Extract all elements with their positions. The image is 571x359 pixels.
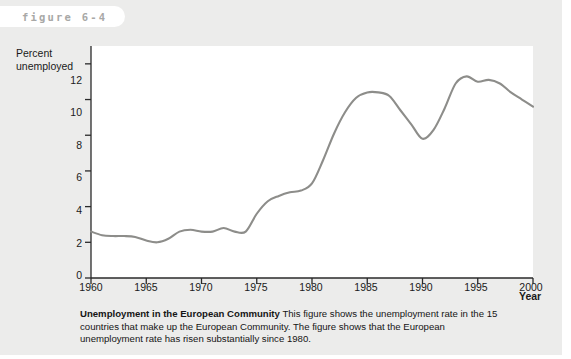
page-right-margin [562, 0, 571, 359]
y-tick-label-8: 8 [56, 139, 82, 151]
x-tick-label-1970: 1970 [179, 281, 223, 293]
y-tick-label-10: 10 [56, 106, 82, 118]
x-tick-label-1965: 1965 [124, 281, 168, 293]
page-bottom-margin [0, 355, 571, 359]
plot-panel [91, 46, 533, 278]
caption-title: Unemployment in the European Community [80, 308, 280, 319]
x-tick-label-2000: 2000 [509, 281, 553, 293]
y-tick-label-2: 2 [56, 237, 82, 249]
x-tick-label-1990: 1990 [399, 281, 443, 293]
x-tick-label-1980: 1980 [289, 281, 333, 293]
x-tick-label-1975: 1975 [234, 281, 278, 293]
x-tick-label-1995: 1995 [454, 281, 498, 293]
figure-page: figure 6-4 Percent unemployed Year 12 10… [0, 0, 571, 359]
y-tick-label-0: 0 [56, 269, 82, 281]
y-tick-label-6: 6 [56, 171, 82, 183]
x-tick-label-1960: 1960 [69, 281, 113, 293]
y-axis-title-line1: Percent [16, 47, 73, 60]
y-axis-title: Percent unemployed [16, 47, 73, 72]
figure-number-tab: figure 6-4 [0, 6, 125, 27]
y-axis-title-line2: unemployed [16, 60, 73, 73]
x-tick-label-1985: 1985 [344, 281, 388, 293]
y-tick-label-4: 4 [56, 204, 82, 216]
figure-number-label: figure 6-4 [22, 11, 107, 23]
y-tick-label-12: 12 [56, 74, 82, 86]
figure-caption: Unemployment in the European Community T… [80, 308, 500, 346]
